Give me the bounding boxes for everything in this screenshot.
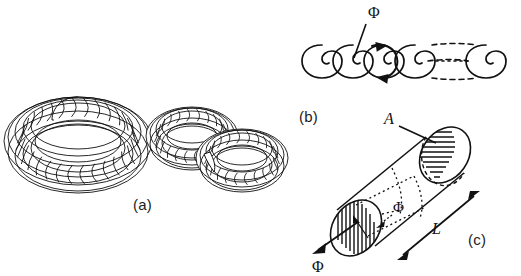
panel-a-drawing (0, 86, 300, 236)
chain-link-1 (302, 45, 342, 78)
length-arrowhead-upper (468, 191, 480, 200)
flux-symbol-b: Φ (368, 4, 380, 21)
panel-label-b: (b) (299, 108, 318, 125)
panel-b-drawing: Φ (296, 0, 521, 108)
figure-root: Φ (0, 0, 521, 276)
area-symbol: A (383, 110, 394, 127)
flux-symbol-c-exterior: Φ (312, 258, 324, 275)
chain-link-2 (333, 45, 373, 78)
panel-c-drawing: Φ Φ A (296, 110, 521, 276)
panel-b-linked-chain: Φ (296, 0, 521, 108)
panel-c-flux-tube: Φ Φ A (296, 110, 521, 276)
chain-links (302, 45, 506, 78)
panel-a-tori (0, 86, 300, 236)
panel-label-c: (c) (468, 231, 486, 248)
length-arrowhead-lower (397, 251, 409, 260)
linked-torus-pair (146, 107, 288, 192)
length-symbol: L (431, 220, 441, 237)
chain-link-last (466, 45, 506, 78)
flux-callout-b: Φ (354, 4, 380, 58)
single-torus (4, 97, 152, 193)
flux-leader-line-b (354, 24, 366, 58)
flux-symbol-c-interior: Φ (393, 199, 404, 215)
exterior-flux-arrowhead (312, 243, 326, 254)
panel-label-a: (a) (133, 196, 152, 213)
